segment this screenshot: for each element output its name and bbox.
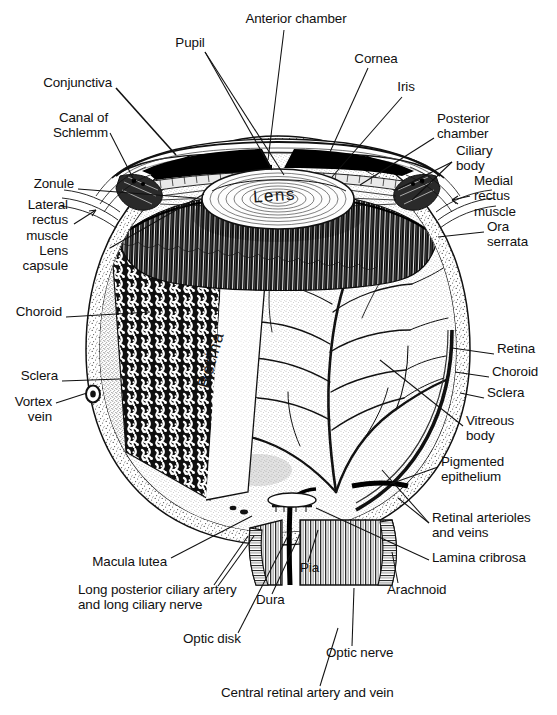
optic-disk-shape — [268, 493, 316, 507]
eye-anatomy-figure: Lens Retina Anterior chamber Pupil Corne… — [0, 0, 557, 715]
label-lamina-cribrosa: Lamina cribrosa — [432, 550, 526, 565]
label-dura: Dura — [256, 592, 285, 607]
label-sclera-left: Sclera — [21, 368, 58, 383]
label-iris: Iris — [397, 79, 414, 94]
label-retinal-arterioles-and-veins: Retinal arterioles and veins — [432, 510, 531, 541]
label-ora-serrata: Ora serrata — [487, 219, 528, 250]
label-pigmented-epithelium: Pigmented epithelium — [441, 454, 504, 485]
label-vortex-vein: Vortex vein — [15, 394, 52, 425]
label-posterior-chamber: Posterior chamber — [437, 111, 490, 142]
label-ciliary-body: Ciliary body — [456, 143, 493, 174]
label-choroid-right: Choroid — [492, 364, 538, 379]
label-lateral-rectus-muscle: Lateral rectus muscle — [26, 197, 68, 243]
label-optic-disk: Optic disk — [183, 631, 241, 646]
label-central-retinal-artery-and-vein: Central retinal artery and vein — [221, 685, 394, 700]
label-anterior-chamber: Anterior chamber — [245, 11, 346, 26]
label-arachnoid: Arachnoid — [387, 582, 446, 597]
label-choroid-left: Choroid — [16, 304, 62, 319]
inline-label-lens: Lens — [253, 187, 297, 205]
label-retina-right: Retina — [497, 341, 535, 356]
label-vitreous-body: Vitreous body — [466, 413, 514, 444]
label-zonule: Zonule — [34, 176, 74, 191]
label-sclera-right: Sclera — [487, 385, 524, 400]
label-lens-capsule: Lens capsule — [23, 243, 68, 274]
label-pia: Pia — [300, 560, 319, 575]
label-conjunctiva: Conjunctiva — [43, 75, 112, 90]
label-cornea: Cornea — [354, 51, 397, 66]
label-pupil: Pupil — [175, 35, 204, 50]
label-canal-of-schlemm: Canal of Schlemm — [53, 110, 108, 141]
central-retinal-vessels — [289, 505, 290, 585]
label-long-posterior-ciliary-artery: Long posterior ciliary artery and long c… — [78, 582, 237, 613]
label-optic-nerve: Optic nerve — [326, 645, 393, 660]
label-medial-rectus-muscle: Medial rectus muscle — [474, 173, 516, 219]
vortex-vein-shape — [86, 386, 100, 403]
label-macula-lutea: Macula lutea — [92, 554, 167, 569]
